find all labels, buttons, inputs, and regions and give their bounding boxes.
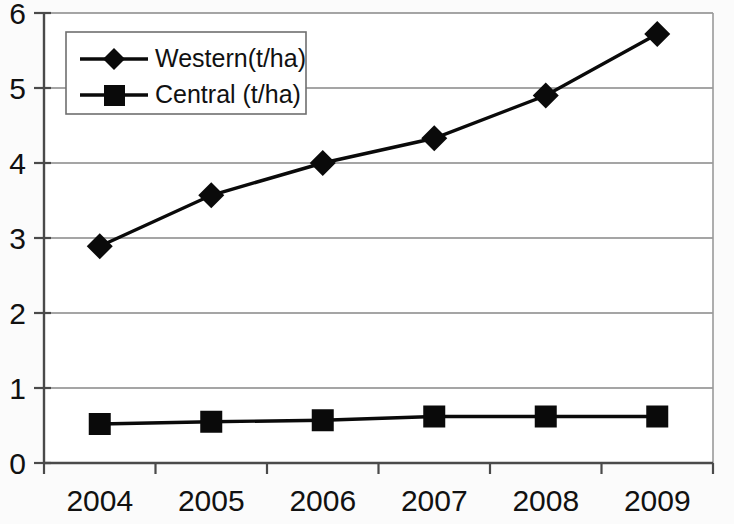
x-tick-label-2008: 2008 xyxy=(512,484,579,517)
x-tick-label-2004: 2004 xyxy=(66,484,133,517)
data-point-marker xyxy=(200,411,222,433)
y-tick-label-4: 4 xyxy=(9,147,26,180)
x-tick-label-2005: 2005 xyxy=(178,484,245,517)
x-tick-label-2009: 2009 xyxy=(624,484,691,517)
x-tick-label-2006: 2006 xyxy=(289,484,356,517)
y-tick-label-1: 1 xyxy=(9,372,26,405)
line-chart: 0123456 200420052006200720082009 Western… xyxy=(0,0,734,524)
data-point-marker xyxy=(646,406,668,428)
y-tick-label-2: 2 xyxy=(9,297,26,330)
data-point-marker xyxy=(89,413,111,435)
x-axis-ticks xyxy=(44,463,713,474)
x-tick-label-2007: 2007 xyxy=(401,484,468,517)
y-tick-label-5: 5 xyxy=(9,72,26,105)
chart-canvas: 0123456 200420052006200720082009 Western… xyxy=(0,0,734,524)
data-point-marker xyxy=(423,406,445,428)
y-tick-label-0: 0 xyxy=(9,447,26,480)
chart-legend: Western(t/ha) Central (t/ha) xyxy=(66,32,306,114)
legend-marker-square-icon xyxy=(104,85,125,106)
data-point-marker xyxy=(312,409,334,431)
data-point-marker xyxy=(535,406,557,428)
legend-label-western: Western(t/ha) xyxy=(155,44,306,72)
x-axis-tick-labels: 200420052006200720082009 xyxy=(66,484,690,517)
y-axis-tick-labels: 0123456 xyxy=(9,0,26,480)
legend-label-central: Central (t/ha) xyxy=(155,80,301,108)
y-tick-label-3: 3 xyxy=(9,222,26,255)
y-tick-label-6: 6 xyxy=(9,0,26,30)
